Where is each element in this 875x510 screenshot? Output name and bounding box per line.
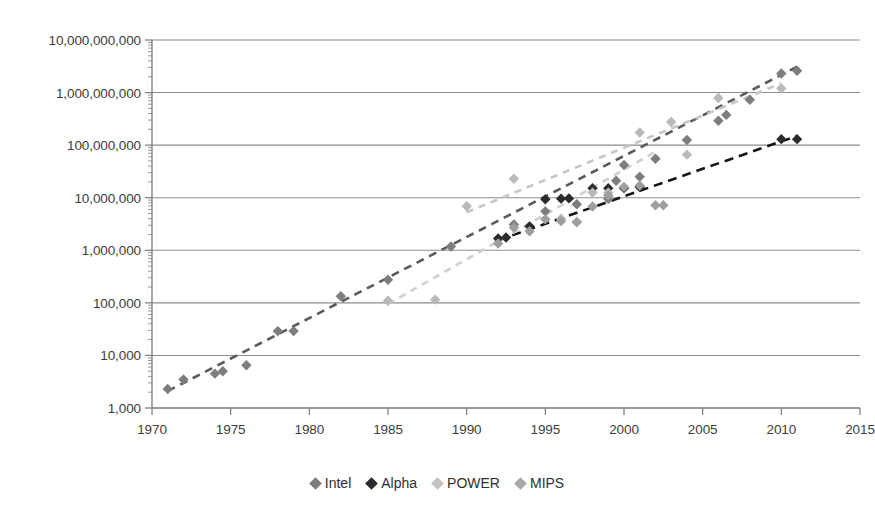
y-axis-tick-label: 1,000,000,000: [56, 85, 141, 100]
data-point: [792, 66, 802, 76]
diamond-marker-icon: [514, 477, 527, 490]
data-point: [178, 374, 188, 384]
y-axis-tick-label: 100,000: [93, 295, 141, 310]
x-axis-tick-label: 2015: [845, 422, 875, 437]
trendlines: [168, 67, 797, 391]
y-axis-tick-label: 10,000,000: [74, 190, 141, 205]
legend-item-alpha[interactable]: Alpha: [367, 476, 417, 490]
y-axis-tick-label: 10,000,000,000: [49, 33, 141, 48]
legend-item-mips[interactable]: MIPS: [516, 476, 564, 490]
x-axis-tick-label: 1970: [137, 422, 167, 437]
x-axis-tick-label: 1990: [452, 422, 482, 437]
data-point: [163, 384, 173, 394]
data-point: [713, 116, 723, 126]
x-axis-tick-label: 2010: [767, 422, 797, 437]
legend-item-power[interactable]: POWER: [433, 476, 500, 490]
data-point: [721, 110, 731, 120]
diamond-marker-icon: [365, 477, 378, 490]
chart-legend: IntelAlphaPOWERMIPS: [0, 470, 875, 496]
axis-lines: [152, 40, 860, 408]
data-point: [713, 93, 723, 103]
data-point: [635, 127, 645, 137]
data-point: [776, 68, 786, 78]
x-axis-tick-label: 1995: [531, 422, 561, 437]
data-point: [509, 173, 519, 183]
x-axis-tick-label: 1985: [373, 422, 403, 437]
diamond-marker-icon: [431, 477, 444, 490]
transistor-count-scatter-chart: 1,00010,000100,0001,000,00010,000,000100…: [0, 0, 875, 510]
x-axis-tick-label: 1975: [216, 422, 246, 437]
y-axis-tick-label: 100,000,000: [67, 138, 141, 153]
data-point: [564, 193, 574, 203]
legend-item-label: Alpha: [381, 476, 417, 490]
data-point: [572, 199, 582, 209]
y-axis-tick-label: 1,000,000: [82, 243, 141, 258]
data-point: [682, 149, 692, 159]
data-point: [658, 200, 668, 210]
legend-item-label: MIPS: [530, 476, 564, 490]
data-point: [587, 201, 597, 211]
y-axis-tick-label: 1,000: [108, 401, 141, 416]
diamond-marker-icon: [309, 477, 322, 490]
gridlines: [152, 40, 860, 355]
data-point: [383, 295, 393, 305]
data-point: [619, 182, 629, 192]
data-point: [792, 134, 802, 144]
data-point: [288, 326, 298, 336]
data-point: [218, 366, 228, 376]
x-axis-tick-label: 2005: [688, 422, 718, 437]
x-axis-tick-label: 1980: [295, 422, 325, 437]
x-axis-tick-label: 2000: [609, 422, 639, 437]
data-point: [776, 134, 786, 144]
data-point: [540, 194, 550, 204]
data-point: [241, 360, 251, 370]
y-axis-tick-label: 10,000: [100, 348, 141, 363]
legend-item-label: Intel: [325, 476, 351, 490]
data-point: [611, 176, 621, 186]
legend-item-label: POWER: [447, 476, 500, 490]
data-point: [501, 232, 511, 242]
data-point: [383, 275, 393, 285]
legend-item-intel[interactable]: Intel: [311, 476, 351, 490]
data-point: [572, 217, 582, 227]
x-axis-ticks: [152, 408, 860, 415]
data-point: [682, 135, 692, 145]
data-point: [745, 95, 755, 105]
data-point: [273, 326, 283, 336]
